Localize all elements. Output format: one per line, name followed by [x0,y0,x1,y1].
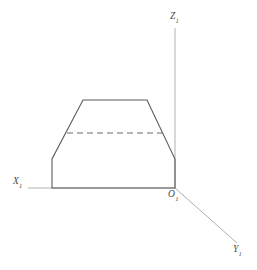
y-axis-label: Y1 [233,245,242,256]
y-axis-line [175,188,237,243]
diagram-canvas: Z1 X1 O1 Y1 [0,0,257,270]
x-axis-label: X1 [13,177,22,188]
origin-label-letter: O [168,189,175,199]
y-axis-label-subscript: 1 [239,250,242,257]
z-axis-label-subscript: 1 [176,17,179,24]
diagram-vector-graphic [0,0,257,270]
z-axis-label: Z1 [170,12,179,23]
x-axis-label-letter: X [13,176,19,186]
origin-label-subscript: 1 [175,195,178,202]
x-axis-label-subscript: 1 [19,182,22,189]
y-axis-label-letter: Y [233,244,238,254]
z-axis-label-letter: Z [170,11,175,21]
origin-label: O1 [168,190,178,201]
trapezoid-cross-section [52,100,175,188]
